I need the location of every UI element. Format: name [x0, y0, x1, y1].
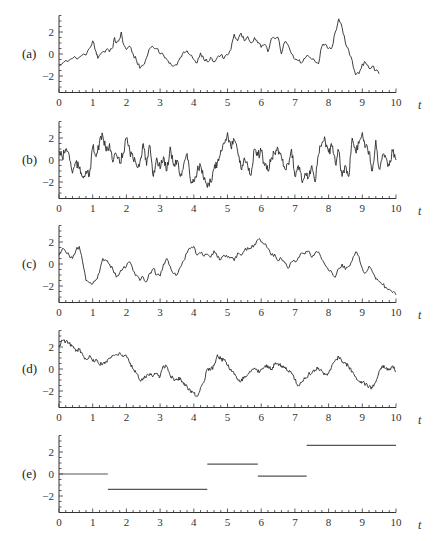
panel-e: (e)20−2012345678910t [22, 436, 422, 532]
x-axis-label: t [418, 98, 422, 112]
y-tick-label: 2 [49, 446, 55, 458]
x-axis-label: t [418, 518, 422, 532]
y-tick-label: 0 [49, 154, 55, 166]
x-tick-label: 8 [326, 306, 332, 318]
y-tick-label: −2 [42, 280, 54, 292]
y-tick-label: 0 [49, 468, 55, 480]
x-tick-label: 1 [90, 202, 96, 214]
x-tick-label: 9 [360, 96, 366, 108]
x-tick-label: 5 [225, 96, 231, 108]
x-tick-label: 7 [292, 306, 298, 318]
panel-b: (b)20−2012345678910t [22, 122, 422, 218]
x-tick-label: 8 [326, 516, 332, 528]
x-tick-label: 5 [225, 411, 231, 423]
panel-a: (a)20−2012345678910t [22, 16, 422, 112]
time-series-line [59, 340, 396, 397]
x-tick-label: 10 [391, 202, 403, 214]
x-tick-label: 7 [292, 411, 298, 423]
x-tick-label: 0 [56, 96, 62, 108]
y-tick-label: −2 [42, 70, 54, 82]
x-tick-label: 6 [258, 411, 264, 423]
panel-label: (a) [22, 46, 36, 61]
x-tick-label: 5 [225, 516, 231, 528]
x-tick-label: 1 [90, 516, 96, 528]
x-tick-label: 1 [90, 306, 96, 318]
x-tick-label: 9 [360, 411, 366, 423]
x-tick-label: 6 [258, 96, 264, 108]
x-tick-label: 0 [56, 306, 62, 318]
y-tick-label: 0 [49, 48, 55, 60]
x-tick-label: 4 [191, 96, 197, 108]
x-tick-label: 3 [157, 516, 163, 528]
x-tick-label: 6 [258, 202, 264, 214]
x-tick-label: 4 [191, 411, 197, 423]
y-tick-label: 2 [49, 132, 55, 144]
figure: (a)20−2012345678910t(b)20−2012345678910t… [0, 0, 440, 541]
x-tick-label: 8 [326, 411, 332, 423]
x-tick-label: 8 [326, 202, 332, 214]
y-tick-label: 0 [49, 258, 55, 270]
x-tick-label: 6 [258, 306, 264, 318]
x-tick-label: 3 [157, 202, 163, 214]
x-tick-label: 10 [391, 411, 403, 423]
panel-label: (c) [22, 256, 36, 271]
x-tick-label: 8 [326, 96, 332, 108]
panel-label: (b) [22, 152, 37, 167]
x-tick-label: 2 [124, 306, 130, 318]
panel-c: (c)20−2012345678910t [22, 226, 422, 322]
x-tick-label: 4 [191, 202, 197, 214]
x-tick-label: 4 [191, 516, 197, 528]
y-tick-label: 0 [49, 363, 55, 375]
panel-d: (d)20−2012345678910t [22, 331, 422, 427]
x-tick-label: 9 [360, 202, 366, 214]
x-tick-label: 7 [292, 202, 298, 214]
x-tick-label: 9 [360, 516, 366, 528]
x-tick-label: 2 [124, 411, 130, 423]
x-tick-label: 3 [157, 411, 163, 423]
time-series-line [59, 239, 396, 295]
x-tick-label: 0 [56, 202, 62, 214]
x-tick-label: 2 [124, 202, 130, 214]
x-tick-label: 2 [124, 516, 130, 528]
y-tick-label: 2 [49, 341, 55, 353]
x-tick-label: 7 [292, 516, 298, 528]
y-tick-label: 2 [49, 26, 55, 38]
x-tick-label: 1 [90, 411, 96, 423]
x-axis-label: t [418, 413, 422, 427]
y-tick-label: −2 [42, 490, 54, 502]
x-tick-label: 0 [56, 516, 62, 528]
y-tick-label: −2 [42, 385, 54, 397]
panel-label: (d) [22, 361, 37, 376]
y-tick-label: −2 [42, 176, 54, 188]
x-tick-label: 1 [90, 96, 96, 108]
x-tick-label: 10 [391, 96, 403, 108]
x-tick-label: 4 [191, 306, 197, 318]
time-series-line [59, 19, 379, 75]
x-tick-label: 6 [258, 516, 264, 528]
panel-label: (e) [22, 466, 36, 481]
x-tick-label: 3 [157, 306, 163, 318]
x-tick-label: 10 [391, 306, 403, 318]
x-tick-label: 0 [56, 411, 62, 423]
x-axis-label: t [418, 204, 422, 218]
x-tick-label: 5 [225, 202, 231, 214]
x-tick-label: 3 [157, 96, 163, 108]
y-tick-label: 2 [49, 236, 55, 248]
x-tick-label: 2 [124, 96, 130, 108]
x-tick-label: 5 [225, 306, 231, 318]
x-tick-label: 9 [360, 306, 366, 318]
time-series-line [59, 133, 396, 188]
x-tick-label: 7 [292, 96, 298, 108]
x-axis-label: t [418, 308, 422, 322]
x-tick-label: 10 [391, 516, 403, 528]
